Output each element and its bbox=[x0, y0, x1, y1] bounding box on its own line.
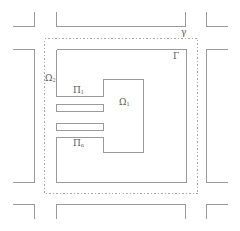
gamma-dashed-boundary bbox=[45, 39, 198, 194]
block-bottom bbox=[57, 205, 186, 220]
main-domain bbox=[57, 50, 187, 183]
label-pi-1: Π1 bbox=[73, 86, 84, 95]
block-left bbox=[13, 50, 35, 183]
block-top-left bbox=[13, 12, 35, 27]
block-bottom-right bbox=[207, 205, 229, 220]
block-top bbox=[57, 12, 186, 27]
gamma-boundary-upper bbox=[57, 50, 187, 183]
block-right bbox=[207, 50, 229, 183]
block-top-right bbox=[207, 12, 229, 27]
bar-2 bbox=[57, 124, 104, 131]
bar-1 bbox=[57, 105, 104, 112]
label-omega-2: Ω2 bbox=[45, 74, 56, 83]
domain-diagram bbox=[0, 0, 240, 231]
label-gamma-upper: Γ bbox=[173, 52, 179, 61]
block-bottom-left bbox=[13, 205, 35, 220]
label-omega-1: Ω1 bbox=[119, 98, 130, 107]
label-pi-n: Πn bbox=[73, 139, 84, 148]
label-gamma-lower: γ bbox=[181, 28, 186, 37]
